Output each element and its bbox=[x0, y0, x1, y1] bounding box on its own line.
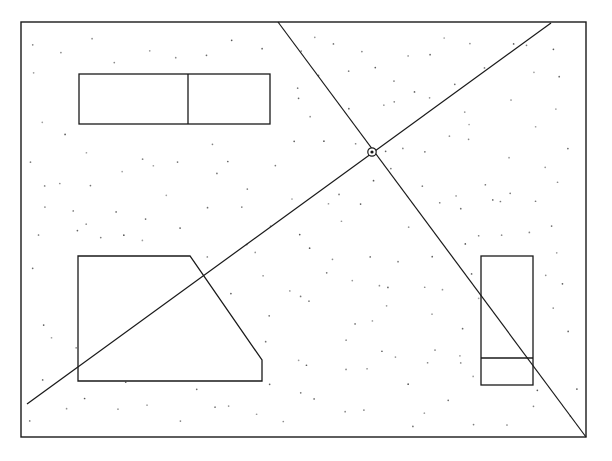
stipple-dot bbox=[536, 389, 538, 391]
stipple-dot bbox=[443, 37, 445, 39]
stipple-dot bbox=[434, 349, 436, 351]
stipple-dot bbox=[332, 258, 334, 260]
stipple-dot bbox=[41, 121, 43, 123]
stipple-dot bbox=[383, 104, 385, 106]
stipple-dot bbox=[77, 230, 79, 232]
stipple-dot bbox=[551, 225, 553, 227]
stipple-dot bbox=[424, 412, 426, 414]
stipple-dot bbox=[91, 38, 93, 40]
stipple-dot bbox=[231, 40, 233, 42]
stipple-dot bbox=[351, 280, 353, 282]
stipple-dot bbox=[509, 192, 511, 194]
stipple-dot bbox=[241, 206, 243, 208]
stipple-dot bbox=[265, 341, 267, 343]
stipple-dot bbox=[309, 116, 311, 118]
stipple-dot bbox=[379, 285, 381, 287]
intersection-marker-layer bbox=[368, 148, 376, 156]
stipple-dot bbox=[464, 243, 466, 245]
stipple-dot bbox=[454, 83, 456, 85]
stipple-dot bbox=[442, 289, 444, 291]
stipple-dot bbox=[567, 148, 569, 150]
stipple-dot bbox=[179, 227, 181, 229]
stipple-dot bbox=[86, 152, 88, 154]
stipple-dot bbox=[552, 307, 554, 309]
stipple-dot bbox=[354, 323, 356, 325]
stipple-dot bbox=[513, 43, 515, 45]
stipple-dot bbox=[142, 240, 144, 242]
stipple-dot bbox=[214, 406, 216, 408]
stipple-dot bbox=[464, 111, 466, 113]
stipple-dot bbox=[469, 43, 471, 45]
floor-plan-svg bbox=[0, 0, 612, 461]
stipple-dot bbox=[262, 275, 264, 277]
stipple-dot bbox=[345, 339, 347, 341]
stipple-dot bbox=[113, 62, 115, 64]
stipple-dot bbox=[29, 420, 31, 422]
stipple-dot bbox=[313, 398, 315, 400]
stipple-dot bbox=[297, 87, 299, 89]
upper-left-double-room bbox=[79, 74, 270, 124]
stipple-dot bbox=[306, 364, 308, 366]
stipple-dot bbox=[468, 138, 470, 140]
stipple-dot bbox=[44, 206, 46, 208]
stipple-dot bbox=[348, 70, 350, 72]
stipple-dot bbox=[289, 290, 291, 292]
stipple-dot bbox=[473, 424, 475, 426]
stipple-dot bbox=[402, 148, 404, 150]
stipple-dot bbox=[485, 184, 487, 186]
stipple-dot bbox=[38, 234, 40, 236]
stipple-dot bbox=[381, 350, 383, 352]
stipple-dot bbox=[344, 411, 346, 413]
stipple-dot bbox=[387, 287, 389, 289]
stipple-dot bbox=[72, 210, 74, 212]
stipple-dot bbox=[462, 328, 464, 330]
stipple-dot bbox=[207, 207, 209, 209]
stipple-dot bbox=[345, 369, 347, 371]
stipple-dot bbox=[314, 36, 316, 38]
stipple-dot bbox=[206, 256, 208, 258]
stipple-dot bbox=[360, 203, 362, 205]
stipple-dot bbox=[85, 223, 87, 225]
stipple-dot bbox=[460, 208, 462, 210]
stipple-dot bbox=[293, 140, 295, 142]
stipple-dot bbox=[338, 194, 340, 196]
right-double-room-outline bbox=[481, 256, 533, 385]
stipple-dot bbox=[459, 355, 461, 357]
stipple-dot bbox=[153, 165, 155, 167]
stipple-dot bbox=[506, 424, 508, 426]
stipple-dot bbox=[361, 51, 363, 53]
stipple-dot bbox=[269, 384, 271, 386]
stipple-dot bbox=[228, 405, 230, 407]
stipple-dot bbox=[510, 99, 512, 101]
stipple-dot bbox=[216, 173, 218, 175]
stipple-dot bbox=[395, 356, 397, 358]
stipple-dot bbox=[115, 211, 117, 213]
stipple-dot bbox=[32, 267, 34, 269]
stipple-dot bbox=[366, 368, 368, 370]
stipple-dot bbox=[455, 195, 457, 197]
stipple-dot bbox=[424, 151, 426, 153]
stipple-dot bbox=[529, 232, 531, 234]
stipple-dot bbox=[408, 226, 410, 228]
stipple-dot bbox=[268, 315, 270, 317]
stipple-dot bbox=[100, 237, 102, 239]
stipple-dot bbox=[369, 256, 371, 258]
stipple-dot bbox=[385, 150, 387, 152]
lower-left-chamfered-room bbox=[78, 256, 262, 381]
stipple-dot bbox=[393, 101, 395, 103]
stipple-dot bbox=[373, 180, 375, 182]
stipple-dot bbox=[309, 247, 311, 249]
stipple-dot bbox=[429, 54, 431, 56]
stipple-dot bbox=[275, 165, 277, 167]
stipple-dot bbox=[175, 57, 177, 59]
intersection-node-center-dot bbox=[370, 150, 373, 153]
stipple-dot bbox=[254, 252, 256, 254]
stipple-dot bbox=[33, 72, 35, 74]
stipple-dot bbox=[44, 185, 46, 187]
stipple-dot bbox=[300, 392, 302, 394]
stipple-dot bbox=[562, 283, 564, 285]
stipple-dot bbox=[348, 108, 350, 110]
stipple-dot bbox=[42, 379, 44, 381]
stipple-dot bbox=[557, 181, 559, 183]
stipple-dot bbox=[421, 185, 423, 187]
